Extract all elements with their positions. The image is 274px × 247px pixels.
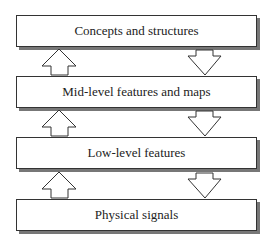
up-arrow-icon	[42, 49, 76, 75]
down-arrow-icon	[188, 111, 221, 136]
down-arrow-icon	[188, 50, 221, 75]
down-arrow-icon	[188, 173, 221, 198]
arrows-layer	[0, 0, 274, 247]
up-arrow-icon	[42, 110, 76, 136]
up-arrow-icon	[42, 172, 76, 198]
